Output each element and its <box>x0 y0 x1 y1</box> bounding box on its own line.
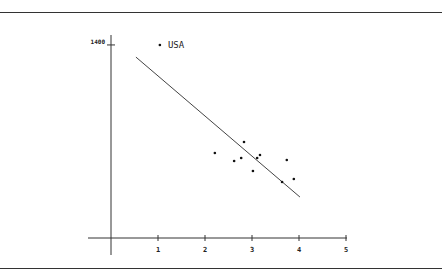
data-point <box>259 154 262 157</box>
regression-line <box>136 57 300 197</box>
data-point <box>285 159 288 162</box>
annotations: USA <box>168 40 185 50</box>
data-points <box>159 44 296 184</box>
fit-line <box>136 57 300 197</box>
x-tick-label: 2 <box>203 246 207 254</box>
data-point <box>281 181 284 184</box>
x-tick-label: 1 <box>156 246 160 254</box>
x-tick-label: 4 <box>297 246 301 254</box>
x-tick-label: 5 <box>344 246 348 254</box>
data-point <box>159 44 162 47</box>
data-point <box>252 170 255 173</box>
data-point <box>243 141 246 144</box>
axes: 123451400 <box>88 35 348 255</box>
point-label: USA <box>168 40 185 50</box>
data-point <box>214 152 217 155</box>
data-point <box>240 157 243 160</box>
scatter-plot: 123451400 USA <box>0 0 442 278</box>
data-point <box>256 157 259 160</box>
y-tick-label: 1400 <box>91 38 106 45</box>
data-point <box>233 160 236 163</box>
x-tick-label: 3 <box>250 246 254 254</box>
chart-figure: 123451400 USA <box>0 0 442 278</box>
data-point <box>293 178 296 181</box>
